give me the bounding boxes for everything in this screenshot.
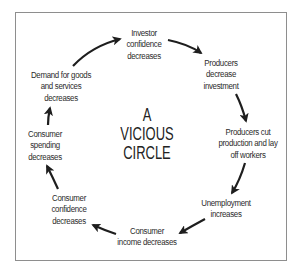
node-line: Producers cut: [218, 126, 277, 137]
node-line: decreases: [126, 50, 161, 61]
arrow-producers-to-cut: [236, 94, 246, 121]
node-consumer-confidence-decreases: Consumer confidence decreases: [48, 192, 91, 226]
arrow-spending-to-demand: [48, 108, 50, 125]
node-line: decreases: [28, 151, 62, 162]
node-line: decrease: [203, 68, 238, 79]
node-line: production and lay: [218, 137, 277, 148]
node-line: income decreases: [117, 236, 176, 247]
arrow-unemployment-to-income: [180, 219, 205, 233]
node-line: Consumer: [51, 192, 86, 203]
arrow-demand-to-investor: [73, 39, 120, 66]
node-line: spending: [28, 139, 62, 150]
node-line: investment: [203, 80, 238, 91]
node-line: decreases: [51, 215, 86, 226]
title-line: CIRCLE: [120, 144, 173, 163]
node-investor-confidence: Investor confidence decreases: [123, 27, 166, 61]
node-line: Unemployment: [201, 197, 250, 208]
node-line: confidence: [126, 38, 161, 49]
title-line: VICIOUS: [120, 125, 173, 144]
arrow-cut-to-unemployment: [232, 163, 245, 193]
node-line: Producers: [203, 57, 238, 68]
title-line: A: [120, 106, 173, 125]
node-line: Consumer: [28, 128, 62, 139]
node-line: Investor: [126, 27, 161, 38]
diagram-title: A VICIOUS CIRCLE: [110, 106, 184, 163]
node-producers-cut-production: Producers cut production and lay off wor…: [212, 126, 284, 160]
node-consumer-income-decreases: Consumer income decreases: [111, 225, 183, 248]
arrow-investor-to-producers: [168, 40, 201, 53]
node-line: Consumer: [117, 225, 176, 236]
node-line: increases: [201, 208, 250, 219]
node-line: off workers: [218, 149, 277, 160]
node-line: and services: [31, 80, 91, 91]
node-line: decreases: [31, 92, 91, 103]
node-demand-decreases: Demand for goods and services decreases: [24, 69, 97, 103]
node-line: confidence: [51, 203, 86, 214]
arrow-confidence-to-spending: [47, 166, 58, 189]
node-line: Demand for goods: [31, 69, 91, 80]
node-consumer-spending-decreases: Consumer spending decreases: [24, 128, 65, 162]
node-producers-decrease-investment: Producers decrease investment: [200, 57, 243, 91]
node-unemployment-increases: Unemployment increases: [196, 197, 256, 220]
vicious-circle-diagram: A VICIOUS CIRCLE Investor confidence dec…: [0, 0, 301, 274]
